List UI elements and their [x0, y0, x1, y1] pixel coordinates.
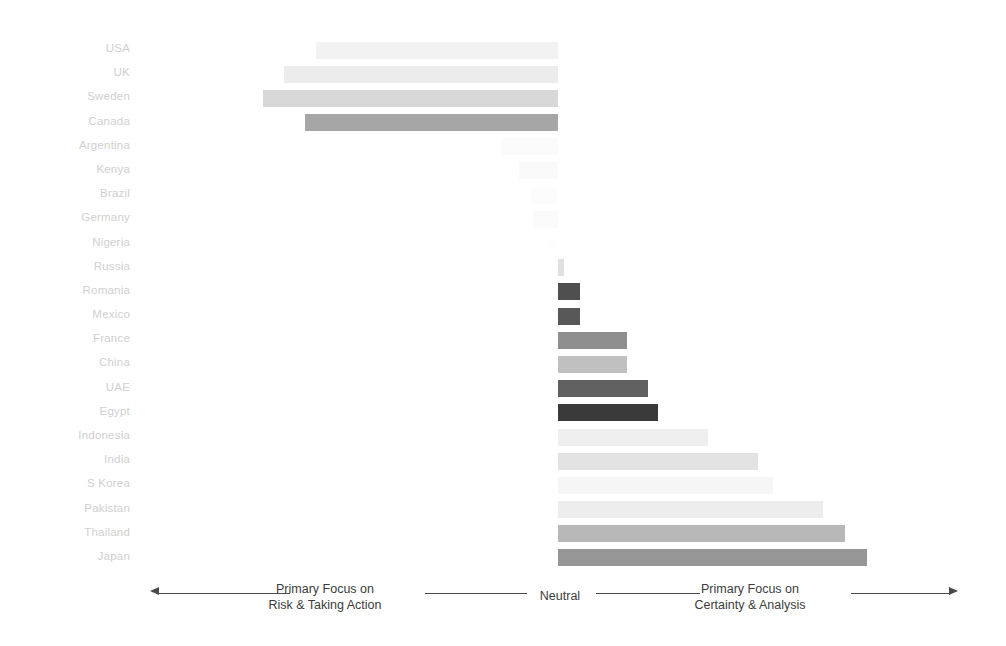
chart-row: Brazil: [0, 183, 1006, 207]
category-label-germany: Germany: [0, 209, 130, 225]
chart-row: China: [0, 352, 1006, 376]
chart-row: USA: [0, 38, 1006, 62]
category-label-thailand: Thailand: [0, 524, 130, 540]
chart-row: Romania: [0, 280, 1006, 304]
axis-label-right-line1: Primary Focus on: [660, 581, 840, 597]
category-label-france: France: [0, 330, 130, 346]
chart-row: Argentina: [0, 135, 1006, 159]
bar-argentina: [501, 138, 558, 155]
category-label-canada: Canada: [0, 113, 130, 129]
chart-row: Russia: [0, 256, 1006, 280]
category-label-usa: USA: [0, 40, 130, 56]
category-label-uk: UK: [0, 64, 130, 80]
bar-egypt: [558, 404, 658, 421]
axis-line-segment-2: [425, 593, 527, 594]
bar-kenya: [519, 162, 558, 179]
category-label-pakistan: Pakistan: [0, 500, 130, 516]
bar-brazil: [530, 187, 558, 204]
category-label-nigeria: Nigeria: [0, 234, 130, 250]
axis-label-right: Primary Focus on Certainty & Analysis: [660, 581, 840, 613]
category-label-argentina: Argentina: [0, 137, 130, 153]
category-label-brazil: Brazil: [0, 185, 130, 201]
category-label-india: India: [0, 451, 130, 467]
bar-canada: [305, 114, 558, 131]
axis-arrow-right-icon: [949, 587, 958, 595]
bar-pakistan: [558, 501, 823, 518]
bar-france: [558, 332, 627, 349]
axis-label-left-line2: Risk & Taking Action: [240, 597, 410, 613]
category-label-romania: Romania: [0, 282, 130, 298]
bar-uae: [558, 380, 648, 397]
category-label-russia: Russia: [0, 258, 130, 274]
bar-indonesia: [558, 429, 708, 446]
chart-row: UAE: [0, 377, 1006, 401]
chart-row: Nigeria: [0, 232, 1006, 256]
bar-nigeria: [547, 235, 558, 252]
bar-india: [558, 453, 758, 470]
axis-label-neutral: Neutral: [527, 588, 593, 604]
bar-germany: [533, 211, 558, 228]
chart-axis-annotation: Primary Focus on Risk & Taking Action Ne…: [0, 578, 1006, 624]
chart-plot-area: USAUKSwedenCanadaArgentinaKenyaBrazilGer…: [0, 38, 1006, 570]
bar-mexico: [558, 308, 580, 325]
axis-label-left-line1: Primary Focus on: [240, 581, 410, 597]
bar-uk: [284, 66, 558, 83]
category-label-egypt: Egypt: [0, 403, 130, 419]
bar-sweden: [263, 90, 558, 107]
chart-row: Pakistan: [0, 498, 1006, 522]
category-label-mexico: Mexico: [0, 306, 130, 322]
chart-row: Egypt: [0, 401, 1006, 425]
category-label-sweden: Sweden: [0, 88, 130, 104]
category-label-japan: Japan: [0, 548, 130, 564]
axis-label-right-line2: Certainty & Analysis: [660, 597, 840, 613]
chart-row: Germany: [0, 207, 1006, 231]
chart-row: India: [0, 449, 1006, 473]
category-label-china: China: [0, 354, 130, 370]
chart-row: Indonesia: [0, 425, 1006, 449]
bar-s-korea: [558, 477, 773, 494]
bar-japan: [558, 549, 867, 566]
chart-row: UK: [0, 62, 1006, 86]
bar-usa: [316, 42, 558, 59]
chart-row: Canada: [0, 111, 1006, 135]
axis-line-segment-4: [851, 593, 949, 594]
bar-china: [558, 356, 627, 373]
category-label-kenya: Kenya: [0, 161, 130, 177]
category-label-indonesia: Indonesia: [0, 427, 130, 443]
chart-row: Mexico: [0, 304, 1006, 328]
chart-row: Kenya: [0, 159, 1006, 183]
bar-chart: USAUKSwedenCanadaArgentinaKenyaBrazilGer…: [0, 0, 1006, 646]
bar-russia: [558, 259, 564, 276]
chart-row: Thailand: [0, 522, 1006, 546]
axis-label-left: Primary Focus on Risk & Taking Action: [240, 581, 410, 613]
category-label-uae: UAE: [0, 379, 130, 395]
chart-row: Japan: [0, 546, 1006, 570]
chart-row: Sweden: [0, 86, 1006, 110]
bar-romania: [558, 283, 580, 300]
category-label-s-korea: S Korea: [0, 475, 130, 491]
chart-row: France: [0, 328, 1006, 352]
chart-row: S Korea: [0, 473, 1006, 497]
bar-thailand: [558, 525, 845, 542]
